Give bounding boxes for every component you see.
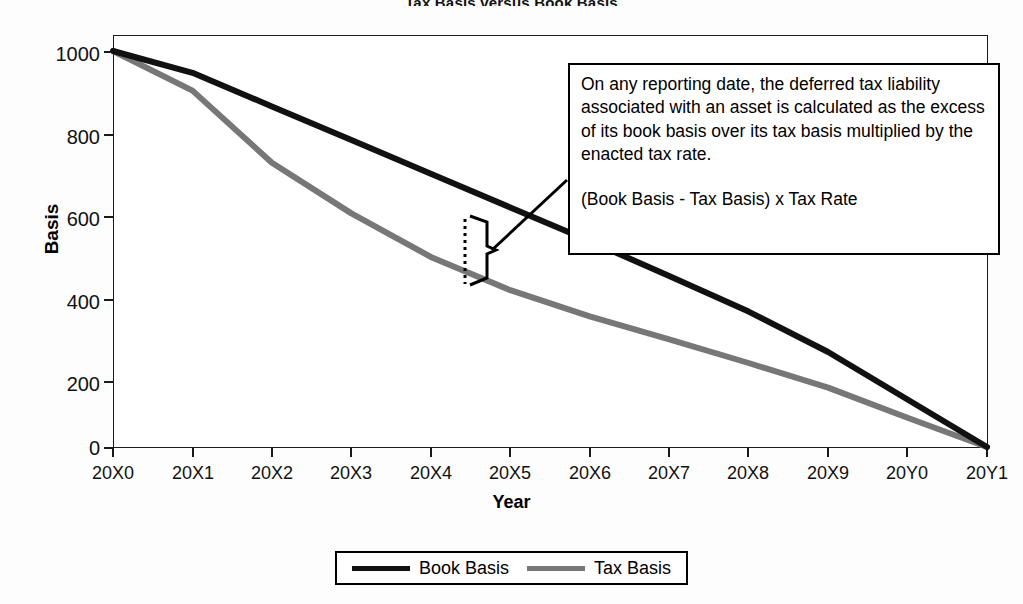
- legend-entry-book-basis: Book Basis: [352, 559, 509, 577]
- legend-label-tax-basis: Tax Basis: [594, 559, 671, 577]
- deferred-tax-callout: On any reporting date, the deferred tax …: [568, 63, 1000, 255]
- callout-leader-line: [492, 180, 567, 250]
- gap-brace-icon: [470, 216, 496, 285]
- callout-paragraph: On any reporting date, the deferred tax …: [581, 73, 988, 166]
- legend-label-book-basis: Book Basis: [419, 559, 509, 577]
- chart-figure: Tax Basis versus Book Basis Basis 1000 8…: [0, 0, 1023, 604]
- legend-line-icon-book-basis: [352, 566, 410, 571]
- chart-legend: Book Basis Tax Basis: [335, 551, 688, 585]
- legend-entry-tax-basis: Tax Basis: [527, 559, 671, 577]
- legend-line-icon-tax-basis: [527, 566, 585, 571]
- callout-formula: (Book Basis - Tax Basis) x Tax Rate: [581, 188, 988, 211]
